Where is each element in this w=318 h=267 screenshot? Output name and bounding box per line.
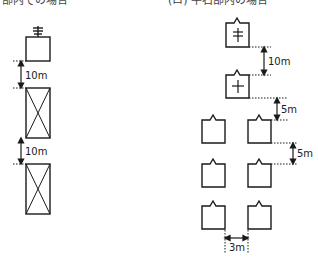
left-dim-label-2: 10m — [25, 146, 47, 157]
house-unit-r1-c2 — [248, 115, 271, 143]
house-unit-r2-c1 — [202, 159, 225, 187]
antenna-icon — [33, 26, 43, 37]
house-grid — [202, 115, 271, 229]
house-unit-r3-c2 — [248, 201, 271, 229]
right-dimension-5m-2 — [271, 143, 298, 164]
left-diagram — [13, 26, 50, 214]
house-unit-r3-c1 — [202, 201, 225, 229]
left-unit-x-2 — [26, 164, 50, 214]
house-unit-r1-c1 — [202, 115, 225, 143]
right-dim-label-3m: 3m — [229, 242, 245, 253]
cross-icon — [232, 80, 244, 93]
right-dim-label-10m: 10m — [268, 56, 290, 67]
left-unit-top — [26, 37, 50, 61]
diagram-canvas: 10m 10m — [0, 0, 318, 267]
right-dim-label-5m-1: 5m — [281, 104, 297, 115]
double-cross-icon — [233, 28, 243, 42]
right-dim-label-5m-2: 5m — [297, 148, 313, 159]
right-diagram — [202, 18, 298, 254]
left-unit-x-1 — [26, 88, 50, 138]
left-dim-label-1: 10m — [25, 70, 47, 81]
house-unit-r2-c2 — [248, 159, 271, 187]
